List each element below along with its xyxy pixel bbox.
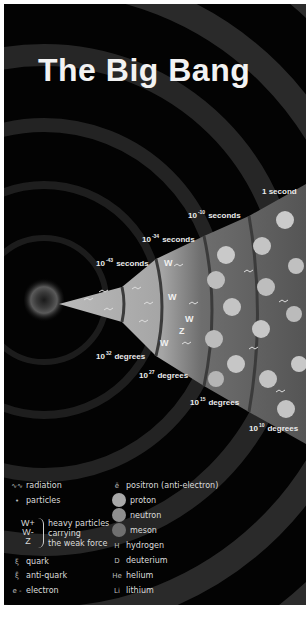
temperature-label-10: 1010degrees: [249, 422, 298, 433]
svg-text:Z: Z: [179, 326, 185, 336]
svg-text:W: W: [164, 258, 173, 268]
svg-text:W: W: [185, 314, 194, 324]
proton-icon: [112, 493, 126, 507]
anti-quark-icon: ξ̄: [8, 572, 26, 580]
legend-item-deuterium: D deuterium: [108, 556, 168, 565]
page-title: The Big Bang: [38, 52, 250, 89]
temperature-label-32: 1032degrees: [96, 350, 145, 361]
legend-item-radiation: ∿∿ radiation: [8, 481, 62, 490]
deuterium-icon: D: [108, 557, 126, 565]
particle-dot-icon: •: [8, 497, 26, 505]
legend: ∿∿ radiation • particles W+ W- Z heavy p…: [4, 471, 306, 605]
hydrogen-icon: H: [108, 542, 126, 550]
quark-icon: ξ: [8, 558, 26, 566]
weak-boson-symbols: W+ W- Z: [21, 519, 35, 546]
legend-item-lithium: Li lithium: [108, 586, 154, 595]
big-bang-diagram: W W W W Z The Big Bang 10-43seconds 10-3…: [4, 4, 306, 605]
time-label-electroweak: 10-10seconds: [188, 209, 241, 220]
helium-icon: He: [108, 572, 126, 580]
legend-item-helium: He helium: [108, 571, 153, 580]
time-label-gut: 10-34seconds: [142, 233, 195, 244]
legend-item-anti-quark: ξ̄ anti-quark: [8, 571, 67, 580]
legend-item-electron: e - electron: [8, 586, 59, 595]
legend-item-meson: meson: [110, 523, 157, 537]
svg-text:W: W: [160, 338, 169, 348]
positron-icon: ē: [108, 482, 126, 490]
neutron-icon: [112, 508, 126, 522]
legend-item-proton: proton: [110, 493, 156, 507]
origin-glow: [24, 276, 64, 324]
legend-item-hydrogen: H hydrogen: [108, 541, 164, 550]
brace-icon: [37, 518, 44, 548]
lithium-icon: Li: [108, 587, 126, 595]
legend-item-particles: • particles: [8, 496, 60, 505]
temperature-label-15: 1015degrees: [190, 396, 239, 407]
legend-item-quark: ξ quark: [8, 557, 49, 566]
svg-text:W: W: [168, 292, 177, 302]
weak-boson-description: heavy particles carrying the weak force: [48, 519, 109, 549]
legend-item-neutron: neutron: [110, 508, 161, 522]
meson-icon: [112, 523, 126, 537]
electron-icon: e -: [8, 587, 26, 595]
legend-item-positron: ē positron (anti-electron): [108, 481, 218, 490]
temperature-label-27: 1027degrees: [139, 369, 188, 380]
time-label-one-second: 1 second: [262, 187, 297, 196]
time-label-planck: 10-43seconds: [96, 257, 149, 268]
radiation-icon: ∿∿: [8, 482, 26, 490]
